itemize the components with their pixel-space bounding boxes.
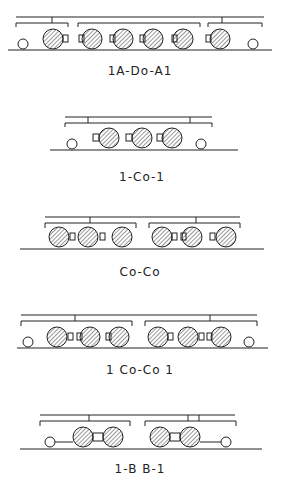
diagram-co-co — [20, 217, 264, 249]
diagram-1-b-b-1 — [20, 415, 262, 449]
diagram-1-co-1 — [50, 117, 238, 150]
diagram-label: 1-B B-1 — [115, 462, 166, 476]
diagram-label: 1 Co-Co 1 — [106, 363, 174, 377]
wheel-arrangement-diagrams: 1A-Do-A1 1-Co-1 Co-Co — [0, 0, 284, 490]
diagram-1-co-co-1 — [17, 315, 268, 348]
diagram-label: 1A-Do-A1 — [108, 64, 173, 78]
diagram-label: Co-Co — [120, 265, 161, 279]
diagram-1a-do-a1 — [8, 17, 272, 50]
diagram-label: 1-Co-1 — [119, 170, 165, 184]
